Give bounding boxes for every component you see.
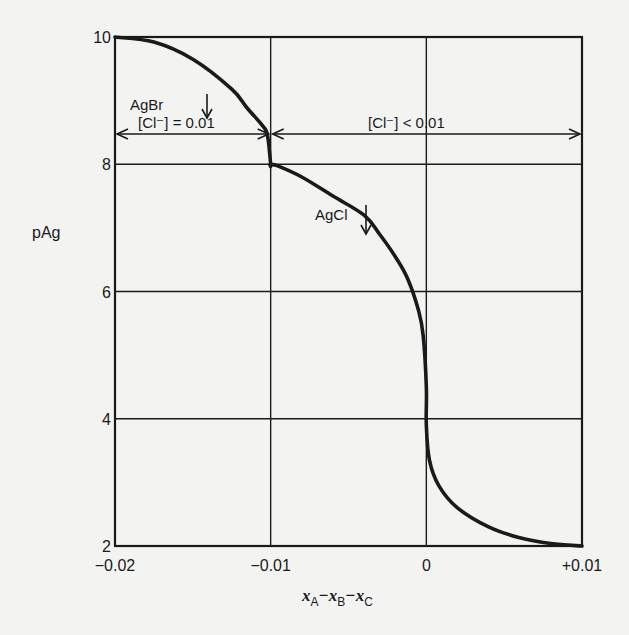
y-tick-label: 4 bbox=[102, 411, 111, 428]
titration-chart: −0.02−0.010+0.01 246810 AgBr AgCl [Cl⁻] … bbox=[0, 0, 629, 635]
x-axis-label: xA−xB−xC bbox=[301, 586, 373, 609]
x-tick-label: +0.01 bbox=[562, 557, 603, 574]
y-tick-label: 6 bbox=[102, 284, 111, 301]
agbr-label: AgBr bbox=[130, 96, 163, 113]
x-tick-label: −0.01 bbox=[250, 557, 291, 574]
y-tick-label: 10 bbox=[93, 29, 111, 46]
y-axis-label: pAg bbox=[32, 224, 60, 241]
y-axis-ticks: 246810 bbox=[93, 29, 111, 555]
x-tick-label: −0.02 bbox=[95, 557, 136, 574]
y-tick-label: 8 bbox=[102, 156, 111, 173]
x-axis-ticks: −0.02−0.010+0.01 bbox=[95, 557, 603, 574]
y-tick-label: 2 bbox=[102, 538, 111, 555]
x-tick-label: 0 bbox=[422, 557, 431, 574]
cl-less-label: [Cl⁻] < 0.01 bbox=[368, 114, 445, 131]
agcl-label: AgCl bbox=[315, 206, 348, 223]
cl-equal-label: [Cl⁻] = 0.01 bbox=[138, 114, 215, 131]
